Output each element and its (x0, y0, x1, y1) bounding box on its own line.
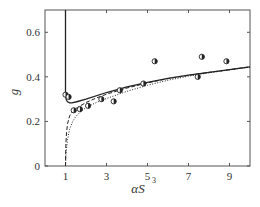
axis-ticks: 1357900.20.40.6 (26, 10, 250, 182)
dotted-curve (66, 67, 251, 166)
axis-labels: g αS 3 (6, 88, 156, 196)
x-tick-label: 7 (186, 170, 192, 182)
y-tick-label: 0 (35, 160, 41, 172)
y-tick-label: 0.6 (26, 26, 40, 38)
x-tick-label: 9 (227, 170, 233, 182)
data-markers (63, 54, 229, 113)
dashed-curve (66, 67, 251, 166)
x-axis-label-superscript: 3 (152, 176, 156, 185)
x-tick-label: 3 (104, 170, 110, 182)
x-axis-label: αS (131, 181, 145, 196)
plot-frame (45, 10, 250, 166)
y-tick-label: 0.4 (26, 71, 40, 83)
x-tick-label: 1 (63, 170, 69, 182)
chart: 1357900.20.40.6 g αS 3 (0, 0, 260, 207)
y-tick-label: 0.2 (26, 115, 40, 127)
solid-curve (66, 10, 251, 103)
y-axis-label: g (6, 88, 21, 95)
curves (66, 10, 251, 166)
x-tick-label: 5 (145, 170, 151, 182)
plot-border (45, 10, 250, 166)
